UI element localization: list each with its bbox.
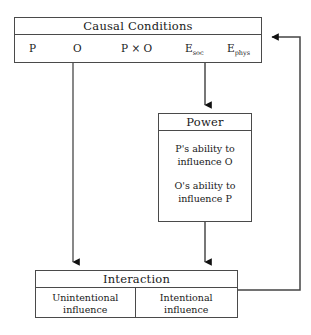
power-statement-1-line-2: influence O [159,155,251,168]
intentional-influence-line-2: influence [136,304,238,316]
power-statement-2-line-1: O's ability to [159,179,251,192]
intentional-influence-line-1: Intentional [136,292,238,304]
term-environment-social-base: E [185,42,193,54]
power-statement-1-line-1: P's ability to [159,142,251,155]
power-statement-2-line-2: influence P [159,192,251,205]
term-environment-physical-subscript: phys [235,49,250,57]
unintentional-influence-line-1: Unintentional [36,292,135,304]
diagram-canvas: Causal Conditions P O P × O Esoc Ephys P… [0,0,311,335]
power-body: P's ability to influence O O's ability t… [159,131,251,205]
interaction-box: Interaction Unintentional influence Inte… [35,270,238,318]
power-statement-o-influences-p: O's ability to influence P [159,179,251,205]
causal-conditions-box: Causal Conditions P O P × O Esoc Ephys [14,17,262,63]
term-person: P [29,42,36,54]
term-other: O [73,42,82,54]
power-box: Power P's ability to influence O O's abi… [158,113,252,222]
interaction-cell-intentional-influence: Intentional influence [136,288,238,318]
term-person-by-other: P × O [121,42,152,54]
term-environment-social-subscript: soc [193,49,204,57]
term-environment-physical-base: E [227,42,235,54]
interaction-cells-row: Unintentional influence Intentional infl… [36,288,237,318]
power-statement-p-influences-o: P's ability to influence O [159,142,251,168]
term-environment-social: Esoc [185,42,204,57]
term-environment-physical: Ephys [227,42,250,57]
power-title: Power [159,114,251,131]
causal-conditions-terms-row: P O P × O Esoc Ephys [15,35,261,63]
causal-conditions-title: Causal Conditions [15,18,261,35]
interaction-cell-unintentional-influence: Unintentional influence [36,288,136,318]
interaction-title: Interaction [36,271,237,288]
unintentional-influence-line-2: influence [36,304,135,316]
